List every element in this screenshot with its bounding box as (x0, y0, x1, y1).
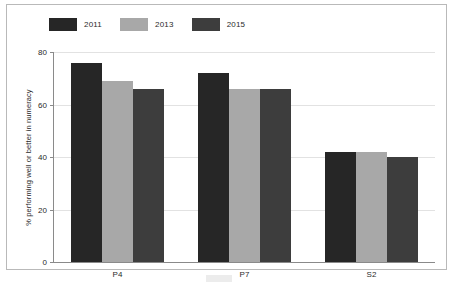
legend-label-2011: 2011 (84, 20, 102, 29)
bar-P4-2011[interactable] (71, 63, 102, 263)
bar-P7-2011[interactable] (198, 73, 229, 262)
y-tick-label-0: 0 (43, 258, 47, 267)
bar-group-P7: P7 (198, 52, 291, 262)
bar-S2-2011[interactable] (325, 152, 356, 262)
y-axis-title-text: % performing well or better in numeracy (24, 89, 33, 225)
bar-P7-2013[interactable] (229, 89, 260, 262)
page-artifact (206, 275, 232, 282)
y-tick-label-40: 40 (38, 153, 47, 162)
y-tick-mark-40 (50, 157, 54, 158)
y-tick-mark-20 (50, 210, 54, 211)
x-axis-line (53, 262, 435, 263)
bar-group-bars (198, 52, 291, 262)
chart-figure: 201120132015 % performing well or better… (6, 4, 447, 270)
legend-swatch-2011 (49, 18, 77, 31)
legend-label-2013: 2013 (155, 20, 174, 29)
plot-area: 020406080P4P7S2 (54, 52, 435, 262)
x-tick-label-S2: S2 (325, 270, 418, 279)
y-axis-title: % performing well or better in numeracy (21, 52, 35, 262)
y-tick-mark-80 (50, 52, 54, 53)
bar-S2-2013[interactable] (356, 152, 387, 262)
y-tick-label-20: 20 (38, 205, 47, 214)
y-tick-label-80: 80 (38, 48, 47, 57)
plot-inner: 020406080P4P7S2 (54, 52, 435, 262)
y-tick-mark-0 (50, 262, 54, 263)
legend-swatch-2015 (192, 18, 220, 31)
bar-P4-2015[interactable] (133, 89, 164, 262)
bar-group-P4: P4 (71, 52, 164, 262)
legend-entry-2015[interactable]: 2015 (192, 18, 246, 31)
bar-group-S2: S2 (325, 52, 418, 262)
legend-entry-2011[interactable]: 2011 (49, 18, 102, 31)
bar-P4-2013[interactable] (102, 81, 133, 262)
y-tick-label-60: 60 (38, 100, 47, 109)
legend-label-2015: 2015 (227, 20, 246, 29)
y-tick-mark-60 (50, 105, 54, 106)
bar-group-bars (71, 52, 164, 262)
x-tick-label-P4: P4 (71, 270, 164, 279)
legend-swatch-2013 (120, 18, 148, 31)
bar-P7-2015[interactable] (260, 89, 291, 262)
legend-entry-2013[interactable]: 2013 (120, 18, 174, 31)
chart-legend: 201120132015 (49, 15, 263, 33)
bar-S2-2015[interactable] (387, 157, 418, 262)
bar-group-bars (325, 52, 418, 262)
